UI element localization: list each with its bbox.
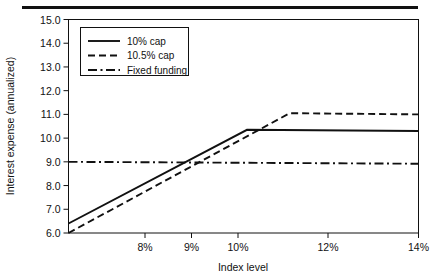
x-tick-label: 10% <box>227 241 248 253</box>
legend-label: 10.5% cap <box>127 50 175 61</box>
y-axis-tick-labels: 6.07.08.09.010.011.012.013.014.015.0 <box>40 14 61 240</box>
x-axis-ticks <box>145 233 419 238</box>
legend-label: 10% cap <box>127 36 166 47</box>
legend: 10% cap10.5% capFixed funding <box>81 28 189 76</box>
x-tick-label: 12% <box>317 241 338 253</box>
y-tick-label: 11.0 <box>41 108 61 120</box>
legend-label: Fixed funding <box>127 65 187 76</box>
x-tick-label: 9% <box>184 241 199 253</box>
y-tick-label: 9.0 <box>46 156 61 168</box>
y-tick-label: 14.0 <box>40 37 61 49</box>
x-axis-title: Index level <box>218 261 268 273</box>
y-tick-label: 12.0 <box>40 85 61 97</box>
y-tick-label: 7.0 <box>46 203 61 215</box>
y-tick-label: 13.0 <box>40 61 61 73</box>
series-line <box>69 130 419 224</box>
y-axis-title: Interest expense (annualized) <box>4 57 16 195</box>
y-tick-label: 8.0 <box>46 180 61 192</box>
y-tick-label: 15.0 <box>40 14 61 26</box>
y-axis-ticks <box>64 20 69 234</box>
y-tick-label: 10.0 <box>40 132 61 144</box>
chart-figure: 6.07.08.09.010.011.012.013.014.015.0 8%9… <box>0 0 439 279</box>
top-rule <box>22 6 418 9</box>
y-tick-label: 6.0 <box>46 227 61 239</box>
x-axis-tick-labels: 8%9%10%12%14% <box>137 241 429 253</box>
line-chart: 6.07.08.09.010.011.012.013.014.015.0 8%9… <box>0 0 439 279</box>
x-tick-label: 8% <box>137 241 152 253</box>
series-line <box>69 162 419 164</box>
data-series-layer <box>69 113 419 233</box>
x-tick-label: 14% <box>408 241 429 253</box>
